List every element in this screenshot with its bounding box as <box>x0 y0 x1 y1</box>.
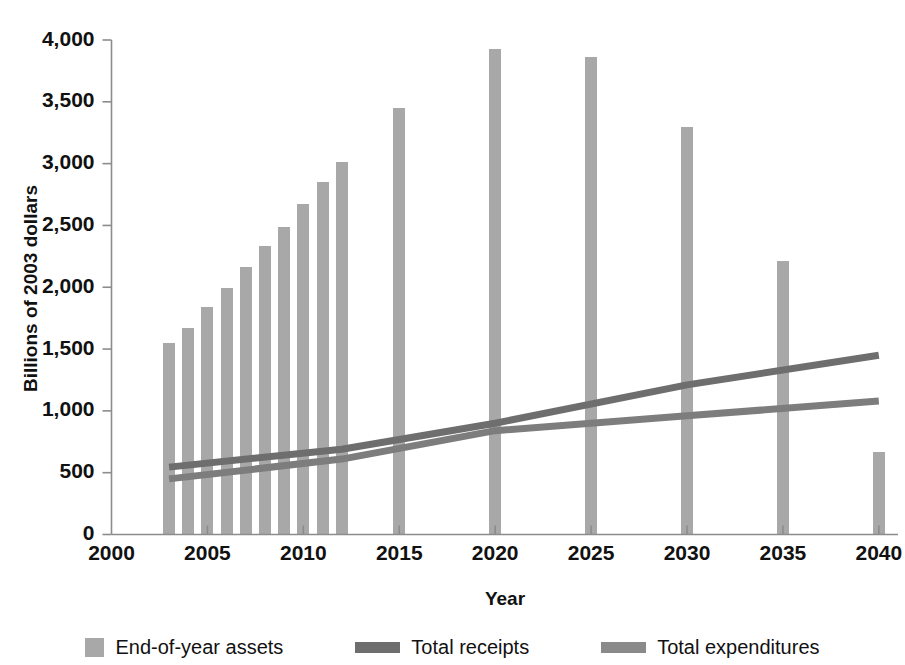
y-tick-label: 3,500 <box>42 88 95 111</box>
bar <box>163 343 175 535</box>
bar <box>278 227 290 535</box>
x-tick-label: 2030 <box>664 541 711 564</box>
bar <box>201 307 213 534</box>
x-tick-label: 2035 <box>760 541 807 564</box>
y-tick-label: 1,500 <box>42 336 95 359</box>
bar <box>489 49 501 535</box>
x-tick-label: 2040 <box>855 541 902 564</box>
x-tick-label: 2000 <box>88 541 135 564</box>
bar <box>393 108 405 535</box>
legend-label: End-of-year assets <box>115 636 283 659</box>
bar <box>259 246 271 534</box>
bar <box>873 452 885 535</box>
chart-canvas: 05001,0001,5002,0002,5003,0003,5004,000 … <box>0 0 905 665</box>
bar <box>297 204 309 534</box>
legend-label: Total receipts <box>411 636 529 659</box>
y-tick-label: 1,000 <box>42 397 95 420</box>
x-tick-label: 2015 <box>376 541 423 564</box>
legend-line-icon <box>601 642 646 653</box>
y-axis-ticks: 05001,0001,5002,0002,5003,0003,5004,000 <box>42 27 112 545</box>
chart-legend: End-of-year assetsTotal receiptsTotal ex… <box>0 630 905 664</box>
y-tick-label: 500 <box>59 459 94 482</box>
chart-figure: 05001,0001,5002,0002,5003,0003,5004,000 … <box>0 0 905 665</box>
x-axis-title: Year <box>485 588 526 609</box>
bar <box>777 261 789 534</box>
legend-item: Total receipts <box>355 636 529 659</box>
legend-item: End-of-year assets <box>85 636 283 659</box>
x-tick-label: 2005 <box>184 541 231 564</box>
legend-line-icon <box>355 642 400 653</box>
bar-series-end-of-year-assets <box>163 49 885 535</box>
bar <box>585 57 597 534</box>
y-tick-label: 2,000 <box>42 274 95 297</box>
y-tick-label: 3,000 <box>42 150 95 173</box>
bar <box>182 328 194 534</box>
line-series-group <box>169 355 879 479</box>
x-tick-label: 2020 <box>472 541 519 564</box>
legend-item: Total expenditures <box>601 636 819 659</box>
y-tick-label: 2,500 <box>42 212 95 235</box>
bar <box>240 267 252 534</box>
y-axis-title: Billions of 2003 dollars <box>20 185 41 392</box>
bar <box>317 182 329 534</box>
legend-label: Total expenditures <box>657 636 819 659</box>
bar <box>681 127 693 535</box>
bar <box>336 162 348 534</box>
line-total-expenditures <box>169 401 879 479</box>
x-tick-label: 2010 <box>280 541 327 564</box>
legend-swatch-icon <box>85 638 104 657</box>
bar <box>221 288 233 534</box>
y-tick-label: 4,000 <box>42 27 95 50</box>
x-tick-label: 2025 <box>568 541 615 564</box>
